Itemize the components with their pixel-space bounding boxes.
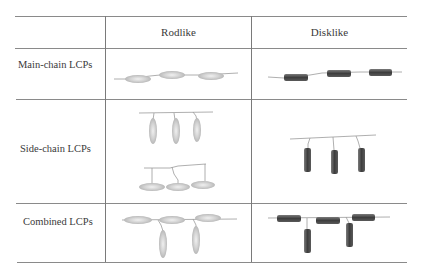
- main-chain-disklike-diagram: [268, 69, 402, 81]
- main-chain-rodlike-diagram: [114, 71, 238, 83]
- disk-mesogen: [284, 74, 308, 81]
- rod-mesogen: [159, 216, 185, 224]
- disk-mesogen: [304, 229, 311, 253]
- disk-mesogen: [346, 223, 353, 247]
- rod-mesogen: [191, 181, 215, 189]
- rod-mesogen: [124, 216, 152, 224]
- side-chain-rodlike-lateral-diagram: [139, 164, 215, 191]
- rod-mesogen: [149, 118, 157, 144]
- rod-mesogen: [195, 214, 221, 222]
- disk-mesogen: [316, 217, 340, 224]
- disk-mesogen: [352, 214, 375, 221]
- rod-mesogen: [139, 183, 165, 191]
- combined-disklike-diagram: [268, 214, 390, 253]
- rod-mesogen: [159, 230, 167, 258]
- lcp-diagrams: [0, 0, 423, 276]
- combined-rodlike-diagram: [122, 214, 237, 258]
- rod-mesogen: [125, 75, 151, 83]
- rod-mesogen: [193, 118, 201, 142]
- rod-mesogen: [198, 72, 224, 80]
- side-chain-rodlike-diagram: [139, 112, 213, 144]
- disk-mesogen: [331, 150, 338, 174]
- disk-mesogen: [358, 148, 365, 172]
- rod-mesogen: [192, 226, 200, 254]
- rod-mesogen: [166, 183, 190, 191]
- disk-mesogen: [369, 69, 392, 76]
- rod-mesogen: [159, 71, 185, 79]
- disk-mesogen: [327, 70, 351, 77]
- disk-mesogen: [304, 148, 311, 172]
- side-chain-disklike-diagram: [290, 135, 376, 174]
- disk-mesogen: [277, 215, 301, 222]
- rod-mesogen: [172, 118, 180, 144]
